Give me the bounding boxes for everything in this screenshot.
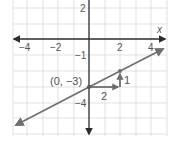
- y-tick-label: −4: [75, 98, 87, 109]
- x-axis-label: x: [156, 24, 163, 35]
- x-tick-label: 4: [148, 42, 154, 53]
- second-point: [118, 69, 122, 73]
- x-tick-label: −2: [50, 42, 62, 53]
- y-intercept-label: (0, −3): [50, 75, 82, 87]
- x-tick-label: 2: [117, 42, 123, 53]
- y-tick-label: −1: [75, 50, 87, 61]
- coordinate-plane: x −4 −2 2 4 2 −1 −4 (0, −3) 2 1: [0, 0, 178, 148]
- y-intercept-point: [87, 85, 91, 89]
- rise-label: 1: [124, 74, 130, 86]
- x-tick-label: −4: [19, 42, 31, 53]
- grid: [13, 0, 167, 136]
- y-tick-label: 2: [80, 3, 86, 14]
- run-label: 2: [101, 90, 107, 102]
